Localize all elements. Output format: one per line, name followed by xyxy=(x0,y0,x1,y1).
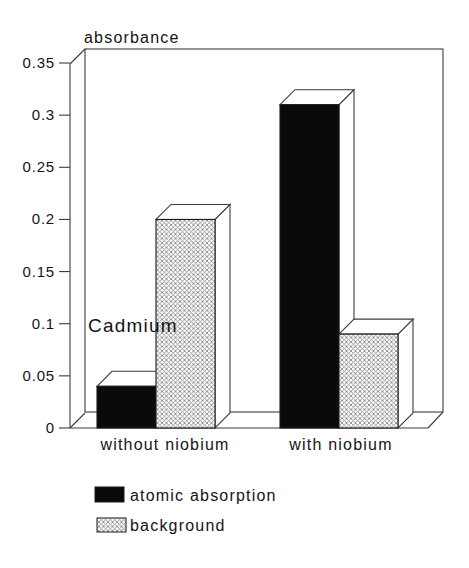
legend-label-atomic-absorption: atomic absorption xyxy=(130,487,277,504)
legend-swatch-atomic-absorption xyxy=(95,487,124,502)
bar-side-face xyxy=(398,319,413,428)
bottom-left-depth-edge xyxy=(70,413,85,428)
y-tick-label: 0.3 xyxy=(32,106,55,123)
y-tick-label: 0 xyxy=(46,419,55,436)
bar-chart-3d: absorbance 00.050.10.150.20.250.30.35 Ca… xyxy=(0,0,469,568)
legend: atomic absorption background xyxy=(95,487,277,534)
bars xyxy=(97,90,413,428)
chart-title: absorbance xyxy=(84,29,180,46)
y-tick-label: 0.1 xyxy=(32,315,55,332)
annotation-element-label: Cadmium xyxy=(88,315,178,336)
y-tick-label: 0.15 xyxy=(23,263,55,280)
bar-front-face xyxy=(339,334,398,428)
y-tick-label: 0.05 xyxy=(23,367,55,384)
bar-front-face xyxy=(97,386,156,428)
y-tick-label: 0.2 xyxy=(32,210,55,227)
legend-swatch-background xyxy=(97,518,126,532)
legend-label-background: background xyxy=(130,517,226,534)
x-label-without-niobium: without niobium xyxy=(99,436,229,453)
bar-front-face xyxy=(280,105,339,428)
y-tick-label: 0.35 xyxy=(23,54,55,71)
bottom-right-depth-edge xyxy=(428,412,443,428)
bar-background-with-niobium xyxy=(339,319,413,428)
y-tick-label: 0.25 xyxy=(23,158,55,175)
top-left-depth-edge xyxy=(70,49,85,64)
figure-cadmium-absorbance: absorbance 00.050.10.150.20.250.30.35 Ca… xyxy=(0,0,469,568)
y-axis-ticks: 00.050.10.150.20.250.30.35 xyxy=(23,54,70,436)
x-label-with-niobium: with niobium xyxy=(288,436,392,453)
bar-side-face xyxy=(215,204,230,428)
